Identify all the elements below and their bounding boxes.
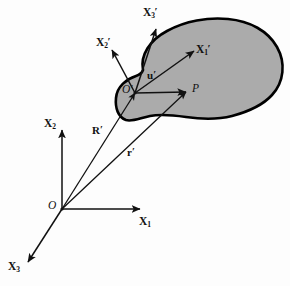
vector-label-R-prime: R′ <box>92 125 103 136</box>
vector-label-u-prime: u′ <box>147 70 156 81</box>
diagram-canvas: X3′ X2′ X1′ O′ P u′ R′ r′ X2 X1 X3 O <box>0 0 290 286</box>
vector-label-r-prime: r′ <box>127 147 135 158</box>
axis-label-x3: X3 <box>8 261 20 274</box>
point-label-P: P <box>192 83 199 95</box>
deformable-body-shape <box>116 19 283 121</box>
axis-label-x1: X1 <box>139 216 151 229</box>
axis-label-x3-prime: X3′ <box>143 6 158 19</box>
origin-O-prime-marker <box>133 91 136 94</box>
origin-label-O: O <box>48 200 56 212</box>
axis-label-x2-prime: X2′ <box>96 36 111 49</box>
origin-O-marker <box>60 207 63 210</box>
origin-label-O-prime: O′ <box>122 84 133 96</box>
vector-u-prime-line <box>135 92 186 93</box>
axis-x3-line <box>28 209 62 262</box>
diagram-graphics <box>0 0 290 286</box>
axis-label-x2: X2 <box>44 118 56 131</box>
axis-label-x1-prime: X1′ <box>196 43 211 56</box>
